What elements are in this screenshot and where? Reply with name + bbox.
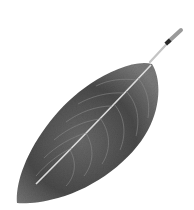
leaf-illustration bbox=[0, 0, 194, 210]
leaf-image: leaf bbox=[0, 0, 194, 210]
